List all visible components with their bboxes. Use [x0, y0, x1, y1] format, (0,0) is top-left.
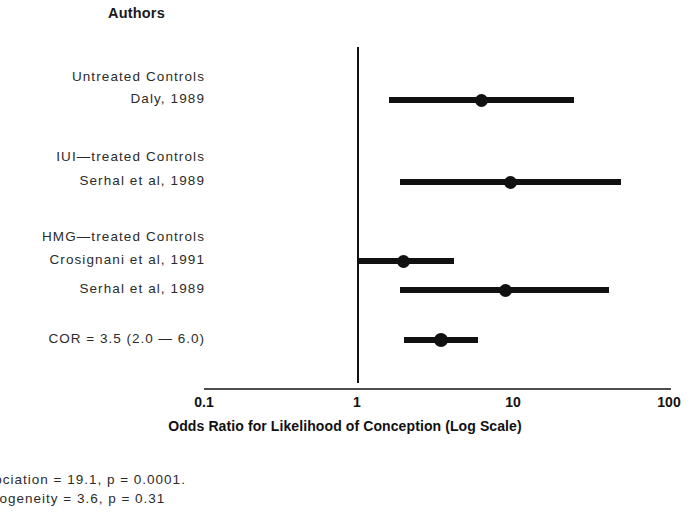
forest-plot-figure: Authors Untreated ControlsDaly, 1989IUI—… [0, 0, 690, 513]
point-estimate-marker-2 [397, 255, 410, 268]
footnote-line-homogeneity: r homogeneity = 3.6, p = 0.31 [0, 489, 186, 508]
point-estimate-marker-0 [475, 94, 488, 107]
reference-line-or-1 [357, 47, 359, 383]
x-axis-tick-0.1: 0.1 [194, 394, 213, 410]
footnote-statistics: r association = 19.1, p = 0.0001. r homo… [0, 470, 186, 508]
footnote-line-association: r association = 19.1, p = 0.0001. [0, 470, 186, 489]
point-estimate-marker-1 [504, 176, 517, 189]
x-axis-tick-10: 10 [505, 394, 521, 410]
plot-area: 0.1110100 [0, 0, 690, 513]
x-axis-tick-1: 1 [353, 394, 361, 410]
x-axis-title: Odds Ratio for Likelihood of Conception … [0, 418, 690, 434]
point-estimate-marker-3 [499, 284, 512, 297]
x-axis-tick-100: 100 [657, 394, 680, 410]
point-estimate-marker-4 [434, 333, 448, 347]
x-axis-line [204, 388, 671, 390]
